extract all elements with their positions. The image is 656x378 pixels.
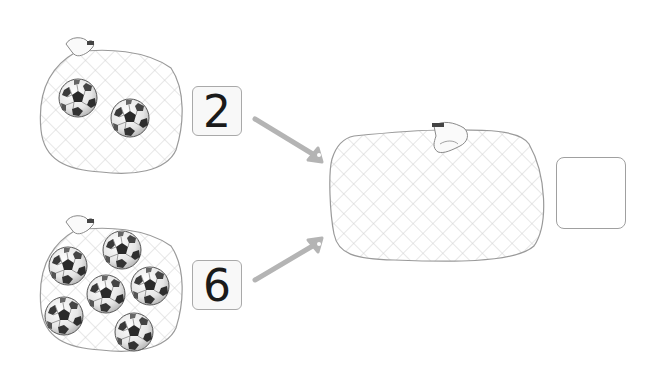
top-count-label: 2 bbox=[203, 86, 231, 137]
top-net-bag bbox=[36, 30, 186, 180]
result-net-bag bbox=[324, 114, 550, 264]
top-count-box: 2 bbox=[192, 86, 242, 136]
soccer-ball-icon bbox=[86, 274, 126, 314]
bottom-count-label: 6 bbox=[203, 260, 231, 311]
soccer-ball-icon bbox=[48, 246, 88, 286]
answer-box[interactable] bbox=[556, 157, 626, 229]
soccer-ball-icon bbox=[44, 296, 84, 336]
arrow-icon bbox=[250, 112, 330, 172]
soccer-ball-icon bbox=[102, 230, 142, 270]
soccer-ball-icon bbox=[130, 266, 170, 306]
bottom-net-bag bbox=[36, 208, 186, 358]
soccer-ball-icon bbox=[110, 98, 150, 138]
soccer-ball-icon bbox=[58, 78, 98, 118]
bottom-count-box: 6 bbox=[192, 260, 242, 310]
net-bag-icon bbox=[324, 114, 550, 264]
arrow-icon bbox=[250, 228, 330, 288]
soccer-ball-icon bbox=[114, 312, 154, 352]
